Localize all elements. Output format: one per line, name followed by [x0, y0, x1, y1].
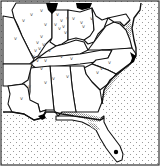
dense-lake-okeechobee [114, 150, 118, 154]
record-mark: v [20, 95, 23, 101]
record-mark: v [70, 55, 73, 61]
record-mark: v [28, 83, 31, 89]
record-mark: v [58, 25, 61, 31]
record-mark: v [38, 45, 41, 51]
distribution-map: vvvvvvvvvvvvvvvvvvvvvvvvvvvvvvvvvvvvv [0, 0, 160, 166]
record-mark: v [66, 15, 69, 21]
record-mark: v [90, 15, 93, 21]
record-mark: v [30, 11, 33, 17]
record-mark: v [42, 41, 45, 47]
record-mark: v [52, 75, 55, 81]
record-mark: v [44, 79, 47, 85]
record-mark: v [30, 61, 33, 67]
record-mark: v [40, 65, 43, 71]
record-mark: v [72, 15, 75, 21]
record-mark: v [82, 23, 85, 29]
record-mark: v [48, 47, 51, 53]
record-mark: v [36, 57, 39, 63]
record-mark: v [56, 11, 59, 17]
record-mark: v [60, 53, 63, 59]
record-mark: v [96, 69, 99, 75]
record-mark: v [40, 33, 43, 39]
record-mark: v [32, 53, 35, 59]
record-mark: v [54, 21, 57, 27]
record-mark: v [14, 35, 17, 41]
record-mark: v [108, 59, 111, 65]
record-mark: v [100, 65, 103, 71]
record-mark: v [40, 7, 43, 13]
record-mark: v [22, 17, 25, 23]
record-mark: v [44, 57, 47, 63]
record-mark: v [66, 73, 69, 79]
record-mark: v [64, 29, 67, 35]
record-mark: v [44, 21, 47, 27]
